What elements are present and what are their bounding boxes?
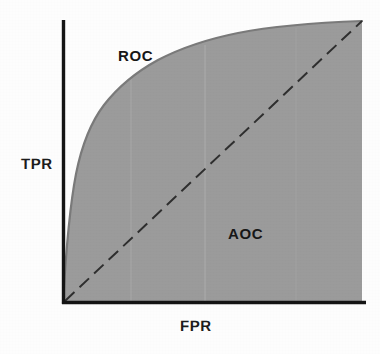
roc-plot-canvas: [0, 0, 380, 354]
roc-curve-label: ROC: [118, 48, 153, 63]
x-axis-label-fpr: FPR: [180, 319, 212, 334]
aoc-area-label: AOC: [228, 226, 263, 241]
roc-curve-figure: TPR FPR ROC AOC: [0, 0, 380, 354]
y-axis-label-tpr: TPR: [21, 157, 53, 172]
